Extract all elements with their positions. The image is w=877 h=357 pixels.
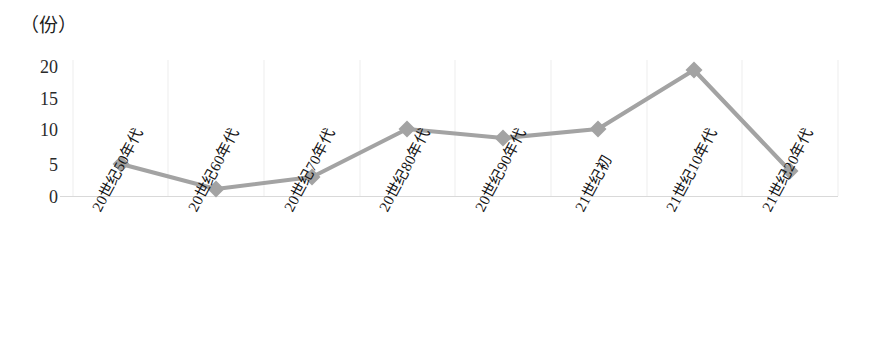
line-chart: （份） 20 15 10 5 0 xyxy=(0,0,877,357)
gridlines xyxy=(73,60,838,196)
plot-area xyxy=(0,0,877,357)
